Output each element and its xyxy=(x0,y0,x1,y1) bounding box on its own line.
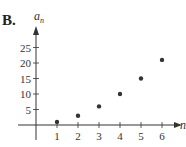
data-point xyxy=(55,120,59,124)
data-point xyxy=(76,114,80,118)
y-axis-arrow-icon xyxy=(33,26,39,35)
data-point xyxy=(139,76,143,80)
x-tick-label: 3 xyxy=(96,130,102,142)
y-tick-label: 5 xyxy=(26,104,32,116)
y-tick-label: 20 xyxy=(20,57,32,69)
x-tick-label: 4 xyxy=(117,130,123,142)
x-tick-label: 1 xyxy=(54,130,60,142)
x-axis-label: n xyxy=(180,118,186,132)
y-tick-label: 10 xyxy=(20,88,32,100)
data-points xyxy=(55,58,164,124)
y-tick-label: 25 xyxy=(20,42,32,54)
x-tick-label: 5 xyxy=(138,130,144,142)
data-point xyxy=(160,58,164,62)
scatter-chart: nan123456510152025 xyxy=(0,0,186,147)
axes: nan123456510152025 xyxy=(18,9,186,142)
y-axis-label: an xyxy=(34,9,44,25)
y-tick-label: 15 xyxy=(20,73,32,85)
x-tick-label: 6 xyxy=(159,130,165,142)
x-tick-label: 2 xyxy=(75,130,81,142)
data-point xyxy=(118,92,122,96)
data-point xyxy=(97,104,101,108)
